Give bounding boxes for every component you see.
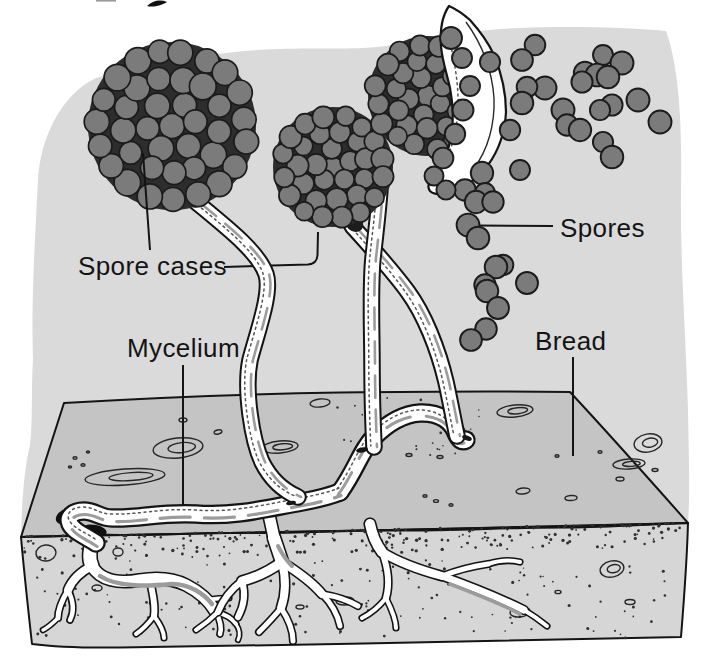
spore-in-case <box>137 184 162 209</box>
spore-in-case <box>227 80 252 105</box>
spore-in-case <box>92 88 115 111</box>
spore <box>569 119 591 141</box>
spore <box>511 92 534 115</box>
spore-in-case <box>89 134 112 157</box>
spore-in-case <box>125 48 151 74</box>
spore-in-case <box>161 188 185 212</box>
spore-in-case <box>365 188 384 207</box>
spore <box>571 71 592 92</box>
spore <box>460 76 480 96</box>
cropped-caption-fragment <box>96 0 167 7</box>
spore <box>440 27 462 49</box>
spore-in-case <box>232 107 257 132</box>
spore <box>433 148 454 169</box>
spore <box>500 120 520 140</box>
spore-in-case <box>84 109 109 134</box>
spore <box>590 100 610 120</box>
label-mycelium: Mycelium <box>127 333 240 363</box>
spore <box>597 66 620 89</box>
spore-in-case <box>162 161 186 185</box>
spore-in-case <box>234 129 259 154</box>
spore <box>516 272 538 294</box>
spore-in-case <box>372 166 393 187</box>
spore-in-case <box>331 207 352 228</box>
spore <box>511 49 533 71</box>
spores-leader <box>477 226 553 227</box>
spore-in-case <box>145 93 170 118</box>
spore <box>482 191 503 212</box>
label-spores: Spores <box>560 213 645 243</box>
spore-in-case <box>184 110 208 134</box>
spore-in-case <box>186 182 211 207</box>
spore <box>471 162 493 184</box>
spore-in-case <box>377 54 399 76</box>
spore-in-case <box>274 167 294 187</box>
spore-in-case <box>295 202 314 221</box>
spore-in-case <box>111 118 136 143</box>
spore-in-case <box>207 120 231 144</box>
spore-in-case <box>410 35 430 55</box>
spore <box>453 100 474 121</box>
spore-in-case <box>168 40 193 65</box>
spore <box>510 160 530 180</box>
spore <box>445 124 465 144</box>
spore-in-case <box>312 106 334 128</box>
spore-in-case <box>371 113 393 135</box>
spore <box>467 227 490 250</box>
spore-in-case <box>312 206 333 227</box>
spore <box>649 111 672 134</box>
spore <box>627 89 650 112</box>
label-spore-cases: Spore cases <box>78 251 227 281</box>
spore-in-case <box>176 134 201 159</box>
spore-in-case <box>147 67 170 90</box>
spore-in-case <box>136 117 159 140</box>
spore <box>480 52 500 72</box>
spore <box>601 146 624 169</box>
bread-mold-diagram: Spore cases Spores Mycelium Bread <box>0 0 716 669</box>
spore-in-case <box>365 75 386 96</box>
bread-mold-figure: Spore cases Spores Mycelium Bread <box>0 0 716 669</box>
spore <box>436 180 455 199</box>
spore <box>452 48 472 68</box>
spore <box>460 329 482 351</box>
label-bread: Bread <box>535 326 606 356</box>
spore-in-case <box>368 94 388 114</box>
spore <box>487 297 509 319</box>
